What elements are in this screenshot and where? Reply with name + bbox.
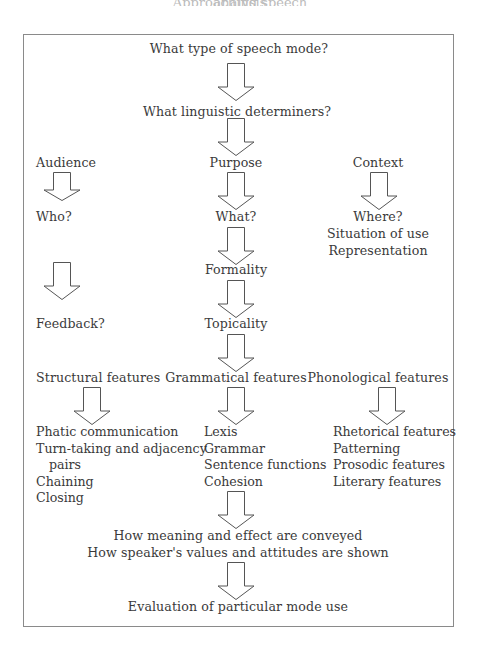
down-arrow-icon	[368, 387, 406, 425]
who-question: Who?	[36, 209, 72, 226]
list-item: Literary features	[333, 474, 456, 491]
structural-features-heading: Structural features	[36, 370, 160, 387]
down-arrow-icon	[217, 387, 255, 425]
list-item: Phatic communication	[36, 424, 207, 441]
list-item: Prosodic features	[333, 457, 456, 474]
evaluation-label: Evaluation of particular mode use	[128, 599, 348, 616]
list-item: Turn-taking and adjacency	[36, 441, 207, 458]
down-arrow-icon	[360, 172, 398, 210]
down-arrow-icon	[217, 63, 255, 101]
speech-mode-question: What type of speech mode?	[150, 41, 328, 58]
down-arrow-icon	[217, 562, 255, 600]
down-arrow-icon	[217, 334, 255, 372]
down-arrow-icon	[217, 227, 255, 265]
down-arrow-icon	[43, 262, 81, 300]
purpose-heading: Purpose	[210, 155, 263, 172]
list-item: Closing	[36, 490, 207, 507]
grammatical-features-heading: Grammatical features	[165, 370, 306, 387]
down-arrow-icon	[217, 280, 255, 318]
values-attitudes-line: How speaker's values and attitudes are s…	[87, 545, 388, 562]
list-item: Lexis	[204, 424, 327, 441]
grammatical-features-list: Lexis Grammar Sentence functions Cohesio…	[204, 424, 327, 490]
list-item: Cohesion	[204, 474, 327, 491]
formality-label: Formality	[205, 262, 267, 279]
list-item: Patterning	[333, 441, 456, 458]
list-item: pairs	[36, 457, 207, 474]
what-question: What?	[216, 209, 257, 226]
context-line: Situation of use	[327, 226, 429, 243]
down-arrow-icon	[217, 118, 255, 156]
list-item: Rhetorical features	[333, 424, 456, 441]
phonological-features-list: Rhetorical features Patterning Prosodic …	[333, 424, 456, 490]
down-arrow-icon	[73, 387, 111, 425]
cropped-heading: Approaching speech analysis	[150, 0, 330, 6]
structural-features-list: Phatic communication Turn-taking and adj…	[36, 424, 207, 507]
down-arrow-icon	[217, 172, 255, 210]
where-question: Where?	[353, 209, 402, 226]
down-arrow-icon	[217, 491, 255, 529]
feedback-question: Feedback?	[36, 316, 105, 333]
phonological-features-heading: Phonological features	[308, 370, 449, 387]
topicality-label: Topicality	[205, 316, 268, 333]
list-item: Chaining	[36, 474, 207, 491]
context-heading: Context	[353, 155, 404, 172]
meaning-effect-line: How meaning and effect are conveyed	[113, 528, 362, 545]
context-line: Representation	[328, 243, 427, 260]
audience-heading: Audience	[36, 155, 96, 172]
down-arrow-icon	[43, 172, 81, 201]
list-item: Grammar	[204, 441, 327, 458]
list-item: Sentence functions	[204, 457, 327, 474]
